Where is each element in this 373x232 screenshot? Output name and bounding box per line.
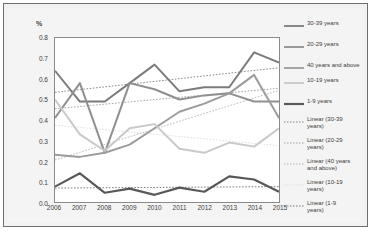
legend-item-label: 10-19 years bbox=[307, 77, 339, 84]
legend-color-swatch bbox=[284, 24, 304, 28]
chart-legend: 30-39 years20-29 years40 years and above… bbox=[284, 20, 373, 221]
legend-color-swatch bbox=[284, 102, 304, 106]
legend-color-swatch bbox=[284, 204, 304, 208]
y-axis-unit-label: % bbox=[36, 20, 42, 27]
x-axis-tick: 2014 bbox=[243, 204, 267, 211]
plot-area bbox=[54, 37, 280, 203]
x-axis-tick: 2013 bbox=[218, 204, 242, 211]
chart-frame: % 0.80.70.60.50.40.30.20.10.0 2006200720… bbox=[3, 3, 368, 227]
legend-item-label: Linear (30-39 years) bbox=[307, 116, 343, 130]
legend-item-label: Linear (20-29 years) bbox=[307, 137, 343, 151]
x-axis-tick: 2006 bbox=[42, 204, 66, 211]
y-axis-tick: 0.7 bbox=[30, 54, 48, 61]
legend-item[interactable]: Linear (1-9 years) bbox=[284, 200, 373, 214]
legend-item[interactable]: 10-19 years bbox=[284, 77, 373, 85]
legend-color-swatch bbox=[284, 141, 304, 145]
y-axis-tick: 0.4 bbox=[30, 117, 48, 124]
legend-item[interactable]: 30-39 years bbox=[284, 20, 373, 28]
x-axis-tick: 2010 bbox=[142, 204, 166, 211]
legend-color-swatch bbox=[284, 183, 304, 187]
x-axis-tick: 2007 bbox=[67, 204, 91, 211]
legend-item[interactable]: Linear (30-39 years) bbox=[284, 116, 373, 130]
legend-item-label: 40 years and above bbox=[307, 62, 360, 69]
legend-item[interactable]: 20-29 years bbox=[284, 41, 373, 49]
legend-color-swatch bbox=[284, 120, 304, 124]
x-axis-tick: 2011 bbox=[168, 204, 192, 211]
y-axis-tick: 0.2 bbox=[30, 158, 48, 165]
legend-item[interactable]: 40 years and above bbox=[284, 62, 373, 70]
legend-item[interactable]: Linear (40 years and above) bbox=[284, 158, 373, 172]
trendline bbox=[55, 187, 279, 188]
trendline bbox=[55, 68, 279, 93]
legend-item-label: 1-9 years bbox=[307, 98, 332, 105]
y-axis-tick: 0.6 bbox=[30, 75, 48, 82]
legend-color-swatch bbox=[284, 66, 304, 70]
legend-item-label: 30-39 years bbox=[307, 20, 339, 27]
legend-item[interactable]: 1-9 years bbox=[284, 98, 373, 106]
legend-item[interactable]: Linear (10-19 years) bbox=[284, 179, 373, 193]
series-lines bbox=[55, 38, 279, 202]
x-axis-tick: 2009 bbox=[117, 204, 141, 211]
chart-inner-panel: % 0.80.70.60.50.40.30.20.10.0 2006200720… bbox=[8, 8, 363, 222]
y-axis-tick: 0.8 bbox=[30, 34, 48, 41]
x-axis-tick: 2012 bbox=[193, 204, 217, 211]
legend-item-label: Linear (10-19 years) bbox=[307, 179, 343, 193]
data-series-line bbox=[55, 173, 279, 195]
legend-color-swatch bbox=[284, 45, 304, 49]
legend-item-label: Linear (40 years and above) bbox=[307, 158, 350, 172]
legend-item-label: Linear (1-9 years) bbox=[307, 200, 336, 214]
y-axis-tick: 0.5 bbox=[30, 96, 48, 103]
y-axis-tick: 0.1 bbox=[30, 179, 48, 186]
legend-item-label: 20-29 years bbox=[307, 41, 339, 48]
legend-color-swatch bbox=[284, 162, 304, 166]
legend-item[interactable]: Linear (20-29 years) bbox=[284, 137, 373, 151]
legend-color-swatch bbox=[284, 81, 304, 85]
y-axis-tick: 0.3 bbox=[30, 137, 48, 144]
x-axis-tick: 2008 bbox=[92, 204, 116, 211]
